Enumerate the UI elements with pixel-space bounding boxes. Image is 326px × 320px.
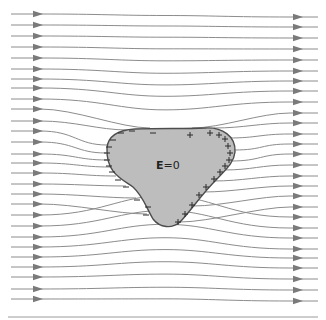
field-line: [192, 113, 318, 128]
arrow-head-icon: [33, 139, 43, 145]
field-line: [11, 274, 318, 279]
field-line: [11, 69, 318, 73]
arrow-head-icon: [293, 276, 303, 282]
arrow-head-icon: [293, 57, 303, 63]
arrow-head-icon: [293, 120, 303, 126]
field-line: [11, 250, 318, 258]
arrow-head-icon: [293, 183, 303, 189]
arrow-head-icon: [293, 88, 303, 94]
field-line: [11, 173, 116, 176]
arrow-head-icon: [293, 151, 303, 157]
field-line: [11, 121, 128, 130]
field-line: [231, 154, 318, 161]
arrow-head-icon: [33, 223, 43, 229]
arrow-head-icon: [293, 193, 303, 199]
arrow-head-icon: [33, 22, 43, 28]
arrow-head-icon: [33, 254, 43, 260]
arrow-head-icon: [293, 204, 303, 210]
field-line: [203, 186, 318, 192]
arrow-head-icon: [33, 76, 43, 82]
conductor-shape: [107, 128, 235, 227]
arrow-head-icon: [33, 244, 43, 250]
arrow-head-icon: [293, 235, 303, 241]
arrow-head-icon: [33, 212, 43, 218]
arrow-head-icon: [293, 78, 303, 84]
arrow-head-icon: [33, 55, 43, 61]
field-line: [11, 204, 147, 214]
field-line: [234, 144, 318, 150]
arrow-head-icon: [293, 246, 303, 252]
arrow-head-icon: [293, 35, 303, 41]
field-line: [214, 123, 318, 128]
field-line: [11, 184, 126, 186]
arrow-head-icon: [33, 128, 43, 134]
arrow-head-icon: [293, 173, 303, 179]
field-value: =0: [164, 159, 180, 172]
arrow-head-icon: [33, 170, 43, 176]
arrow-head-icon: [293, 214, 303, 220]
arrow-head-icon: [33, 11, 43, 17]
field-line: [228, 134, 318, 138]
arrow-head-icon: [33, 201, 43, 207]
field-line: [11, 47, 318, 49]
field-line: [11, 58, 318, 61]
field-line: [193, 196, 318, 206]
field-line: [11, 88, 318, 96]
field-line: [11, 194, 136, 198]
arrow-head-icon: [293, 24, 303, 30]
arrow-head-icon: [293, 265, 303, 271]
field-line: [11, 79, 318, 85]
arrow-head-icon: [293, 255, 303, 261]
field-line: [11, 99, 318, 110]
arrow-head-icon: [33, 160, 43, 166]
arrow-head-icon: [33, 191, 43, 197]
field-line: [11, 154, 107, 160]
field-symbol: E: [156, 159, 164, 172]
arrow-head-icon: [293, 46, 303, 52]
arrow-head-icon: [33, 151, 43, 157]
arrow-head-icon: [293, 14, 303, 20]
field-line: [11, 238, 318, 249]
field-line: [223, 165, 318, 170]
arrow-head-icon: [33, 274, 43, 280]
arrow-head-icon: [293, 99, 303, 105]
arrow-head-icon: [293, 141, 303, 147]
arrow-head-icon: [33, 44, 43, 50]
arrow-head-icon: [293, 110, 303, 116]
field-line: [11, 262, 318, 268]
field-line: [11, 25, 318, 27]
arrow-head-icon: [33, 118, 43, 124]
arrow-head-icon: [33, 33, 43, 39]
field-line: [11, 14, 318, 17]
arrow-head-icon: [33, 96, 43, 102]
arrow-head-icon: [293, 68, 303, 74]
field-line: [11, 36, 318, 38]
arrow-head-icon: [33, 234, 43, 240]
arrow-head-icon: [293, 225, 303, 231]
arrow-head-icon: [33, 264, 43, 270]
field-line: [213, 176, 318, 181]
field-line: [11, 299, 318, 301]
arrow-head-icon: [33, 106, 43, 112]
arrow-head-icon: [33, 66, 43, 72]
arrow-head-icon: [33, 181, 43, 187]
arrow-head-icon: [33, 85, 43, 91]
arrow-head-icon: [33, 296, 43, 302]
arrow-head-icon: [293, 162, 303, 168]
arrow-head-icon: [33, 286, 43, 292]
field-inside-label: E=0: [156, 159, 180, 172]
arrow-head-icon: [293, 298, 303, 304]
arrow-head-icon: [293, 287, 303, 293]
field-line: [11, 287, 318, 290]
field-line: [11, 163, 110, 167]
arrow-head-icon: [293, 131, 303, 137]
